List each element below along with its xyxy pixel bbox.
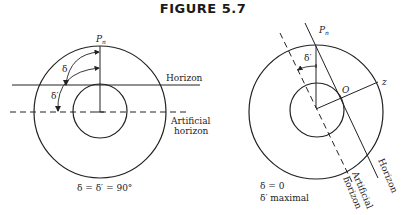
delta-prime-arc-arrow	[58, 68, 99, 111]
left-diagram: Pn δ δ′ Horizon Artificial horizon δ = δ…	[10, 34, 211, 193]
observer-label: O	[342, 85, 350, 95]
artificial-horizon-label-1: Artificial	[170, 116, 211, 126]
delta-prime-label: δ′	[304, 53, 311, 63]
horizon-label: Horizon	[166, 73, 203, 83]
right-diagram: Pn δ′ O z Horizon Artificial horizon δ =…	[249, 23, 400, 211]
pole-label: Pn	[318, 25, 329, 36]
horizon-label: Horizon	[376, 157, 400, 195]
delta-arc-arrow	[66, 52, 99, 84]
left-caption: δ = δ′ = 90°	[77, 183, 132, 193]
delta-label: δ	[62, 64, 67, 74]
zenith-label: z	[381, 77, 387, 87]
right-caption-2: δ′ maximal	[260, 193, 309, 203]
pole-label: Pn	[95, 34, 106, 45]
right-caption-1: δ = 0	[260, 181, 285, 191]
figure-diagram: Pn δ δ′ Horizon Artificial horizon δ = δ…	[0, 0, 406, 215]
delta-prime-label: δ′	[51, 91, 58, 101]
artificial-horizon-label-2: horizon	[174, 126, 209, 136]
delta-prime-arc-arrow	[298, 66, 317, 70]
